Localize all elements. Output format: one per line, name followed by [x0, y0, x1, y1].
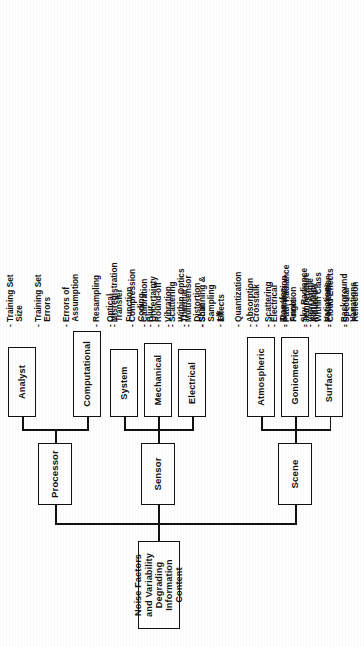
connector-sensor-mechanical [158, 417, 160, 431]
leafgroup-node-atmospheric[interactable]: Atmospheric [247, 337, 275, 417]
diagram-rotation-wrapper: Noise Factors and Variability Degrading … [0, 0, 364, 647]
connector-scene-atmospheric [261, 417, 263, 431]
leaf-item: - Resampling [92, 230, 101, 327]
leaf-item: - Absorption [246, 226, 255, 327]
connector-scene-stem [295, 429, 297, 443]
connector-sensor-stem [158, 429, 160, 443]
leaf-item: - Errors of Assumption [62, 238, 81, 327]
leaf-item: - Optical Transfer Function [106, 226, 134, 327]
leafgroup-node-analyst[interactable]: Analyst [8, 347, 36, 417]
leaf-item: - Thermal [180, 226, 189, 327]
leafgroup-node-goniometric[interactable]: Goniometric [281, 337, 309, 417]
leafgroup-node-computational[interactable]: Computational [73, 331, 101, 417]
leafgroup-node-mechanical[interactable]: Mechanical [144, 343, 172, 417]
leaf-item: - Training Set Size [6, 238, 25, 327]
connector-processor-analyst [22, 417, 24, 431]
connector-root-spine [55, 523, 297, 525]
leaf-item: - Scattering [264, 226, 273, 327]
branch-node-scene[interactable]: Scene [278, 443, 312, 505]
connector-processor-bus [22, 429, 89, 431]
connector-spine-processor [55, 505, 57, 525]
leaf-item: - Illumination Angle [280, 226, 299, 327]
leaf-item: - Vibration [164, 226, 173, 327]
connector-sensor-electrical [192, 417, 194, 431]
connector-sensor-system [124, 417, 126, 431]
branch-node-sensor[interactable]: Sensor [141, 443, 175, 505]
connector-spine-scene [295, 505, 297, 525]
connector-spine-sensor [158, 505, 160, 525]
connector-scene-surface [330, 417, 332, 431]
leaf-item: - Quantization [234, 226, 243, 327]
leafgroup-node-electrical[interactable]: Electrical [178, 349, 206, 417]
connector-processor-stem [55, 429, 57, 443]
leaf-item: - Training Set Errors [34, 238, 53, 327]
connector-scene-goniometric [295, 417, 297, 431]
leafgroup-node-system[interactable]: System [110, 349, 138, 417]
root-node[interactable]: Noise Factors and Variability Degrading … [138, 541, 180, 629]
leaf-item: - Within Class Variations [314, 226, 333, 327]
connector-root-stem [158, 523, 160, 541]
diagram-canvas: Noise Factors and Variability Degrading … [0, 0, 364, 647]
leafgroup-node-surface[interactable]: Surface [315, 353, 343, 417]
leaf-item: - Background Variations [340, 226, 359, 327]
branch-node-processor[interactable]: Processor [38, 443, 72, 505]
leaf-item: - Shot [198, 226, 207, 327]
leaf-item: - Blur [146, 226, 155, 327]
leaf-item: - 1/f [216, 226, 225, 327]
connector-processor-computational [87, 417, 89, 431]
